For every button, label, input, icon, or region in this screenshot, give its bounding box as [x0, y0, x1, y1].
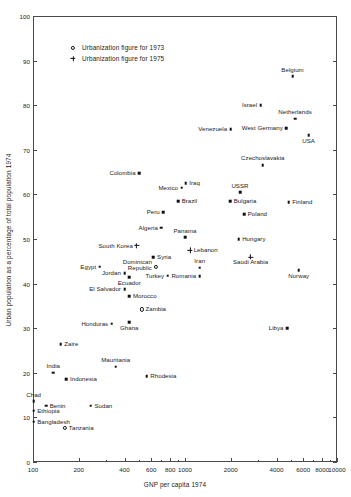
data-point-marker [239, 191, 242, 194]
data-point-label: USA [302, 138, 315, 144]
data-point-label: Colombia [109, 170, 135, 176]
data-point-label: Mexico [158, 185, 178, 191]
data-point-label: Israel [242, 102, 257, 108]
data-point-label: Sudan [94, 403, 112, 409]
y-tick [33, 239, 37, 240]
data-point-label: Tanzania [69, 425, 94, 431]
data-point-label: Panama [174, 227, 197, 233]
data-point-marker [198, 266, 201, 269]
data-point-marker [262, 164, 265, 167]
data-point-label: Brazil [182, 198, 198, 204]
legend-marker-circle-icon [68, 42, 82, 53]
chart-legend: Urbanization figure for 1973Urbanization… [68, 42, 164, 64]
data-point-marker [166, 274, 169, 277]
scatter-chart: 1002004006008001000200040006000800010000… [0, 0, 351, 497]
y-tick-label: 0 [11, 459, 30, 466]
data-point-marker [123, 288, 126, 291]
data-point-marker [160, 227, 163, 230]
x-tick [231, 458, 232, 462]
data-point-label: Bangladesh [37, 419, 70, 425]
x-tick-label: 400 [119, 466, 130, 473]
data-point-marker [123, 272, 126, 275]
data-point-label: West Germany [242, 125, 283, 131]
x-tick [337, 458, 338, 462]
data-point-label: Iraq [189, 180, 200, 186]
x-tick-label: 200 [73, 466, 84, 473]
legend-item: Urbanization figure for 1973 [68, 42, 164, 53]
data-point-label: Finland [292, 199, 312, 205]
data-point-marker [187, 247, 192, 252]
x-tick-label: 4000 [269, 466, 283, 473]
data-point-label: Iran [194, 258, 205, 264]
y-tick-label: 50 [11, 236, 30, 243]
plot-area [33, 16, 337, 462]
data-point-label: Belgium [281, 66, 303, 72]
data-point-label: Poland [248, 211, 267, 217]
data-point-label: Ethiopia [37, 408, 59, 414]
data-point-label: Chad [26, 391, 41, 397]
x-tick [277, 458, 278, 462]
y-tick-right [333, 61, 337, 62]
data-point-label: Zaire [64, 341, 78, 347]
data-point-marker [128, 295, 131, 298]
x-minor-tick [330, 460, 331, 463]
data-point-label: Mauritania [101, 357, 130, 363]
y-tick-label: 60 [11, 191, 30, 198]
data-point-marker [184, 182, 187, 185]
data-point-label: Hungary [242, 236, 265, 242]
x-minor-tick [161, 460, 162, 463]
data-point-label: Morocco [133, 293, 157, 299]
y-tick-label: 100 [11, 13, 30, 20]
data-point-label: South Korea [99, 242, 133, 248]
y-tick-right [333, 462, 337, 463]
x-tick-label: 1000 [178, 466, 192, 473]
data-point-marker [32, 400, 35, 403]
data-point-label: Honduras [81, 321, 108, 327]
x-tick-label: 600 [146, 466, 157, 473]
data-point-label: Zambia [145, 306, 166, 312]
data-point-label: Netherlands [278, 109, 311, 115]
data-point-marker [152, 256, 155, 259]
x-tick [170, 458, 171, 462]
data-point-label: Norway [288, 273, 309, 279]
data-point-label: Venezuela [198, 126, 227, 132]
x-tick-label: 10000 [328, 466, 346, 473]
data-point-label: USSR [231, 182, 248, 188]
data-point-marker [32, 409, 35, 412]
data-point-marker [52, 372, 55, 375]
x-axis-title: GNP per capita 1974 [144, 481, 206, 488]
data-point-marker [285, 127, 288, 130]
data-point-label: Rhodesia [150, 373, 176, 379]
x-minor-tick [139, 460, 140, 463]
legend-item: Urbanization figure for 1975 [68, 53, 164, 64]
data-point-label: Ghana [120, 325, 139, 331]
data-point-marker [180, 186, 183, 189]
y-tick-label: 80 [11, 102, 30, 109]
data-point-label: Jordan [102, 270, 121, 276]
y-tick [33, 284, 37, 285]
y-tick [33, 150, 37, 151]
data-point-marker [184, 236, 187, 239]
y-tick-right [333, 373, 337, 374]
data-point-marker [287, 201, 290, 204]
x-tick [322, 458, 323, 462]
legend-marker-plus-icon [68, 53, 82, 64]
data-point-label: Turkey [145, 272, 164, 278]
y-tick [33, 462, 37, 463]
data-point-marker [198, 275, 201, 278]
x-tick-label: 6000 [296, 466, 310, 473]
data-point-label: Indonesia [70, 376, 97, 382]
data-point-label: Ecuador [118, 280, 141, 286]
y-tick-label: 70 [11, 146, 30, 153]
data-point-marker [177, 200, 180, 203]
data-point-marker [259, 104, 262, 107]
y-tick-right [333, 328, 337, 329]
data-point-marker [138, 172, 141, 175]
data-point-marker [59, 343, 62, 346]
data-point-label: Romania [171, 273, 196, 279]
circle-marker-icon [71, 45, 75, 49]
plus-marker-icon [70, 56, 75, 61]
data-point-marker [294, 117, 297, 120]
data-point-marker [237, 238, 240, 241]
x-minor-tick [178, 460, 179, 463]
